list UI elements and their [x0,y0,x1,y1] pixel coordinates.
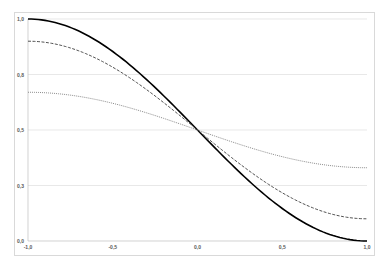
y-tick-label: 1,0 [17,16,24,22]
x-tick-label: 1,0 [364,244,371,250]
x-tick-label: 0,5 [279,244,286,250]
y-axis-labels: 0,00,30,50,81,0 [17,16,24,244]
gridlines [28,19,367,186]
x-tick-label: 0,0 [194,244,201,250]
x-tick-label: -0,5 [108,244,117,250]
y-tick-label: 0,5 [17,127,24,133]
x-tick-label: -1,0 [24,244,33,250]
x-axis-labels: -1,0-0,50,00,51,0 [24,244,371,250]
y-tick-label: 0,8 [17,72,24,78]
y-tick-label: 0,3 [17,183,24,189]
line-chart: 0,00,30,50,81,0 -1,0-0,50,00,51,0 [0,0,390,268]
